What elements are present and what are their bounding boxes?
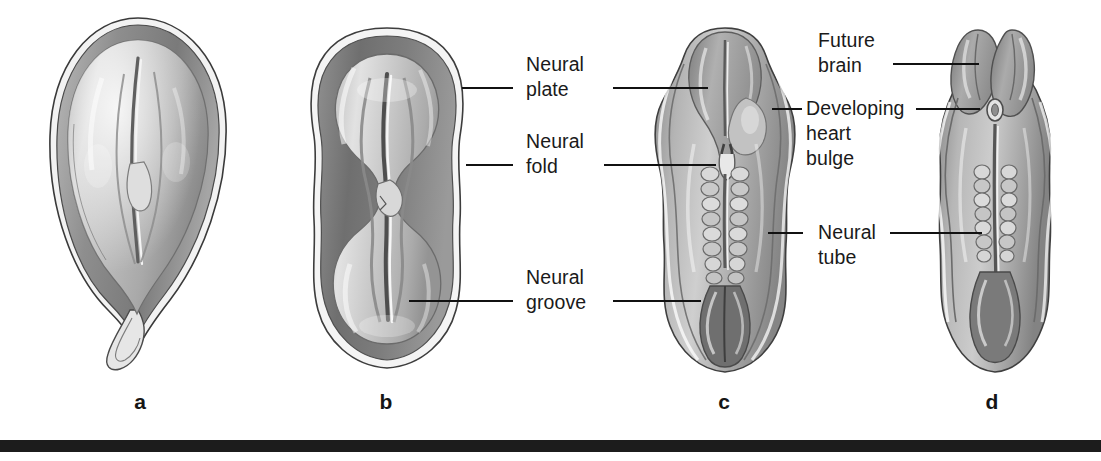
leader-neural-tube-left (768, 232, 803, 234)
leader-neural-groove-left (409, 300, 513, 302)
panel-d-illustration (920, 24, 1070, 376)
label-developing-heart-bulge: Developing heart bulge (806, 96, 905, 171)
label-neural-plate: Neural plate (526, 52, 584, 102)
label-neural-tube: Neural tube (818, 220, 876, 270)
label-neural-fold: Neural fold (526, 129, 584, 179)
leader-neural-tube-right (890, 232, 982, 234)
leader-neural-plate-left (462, 87, 513, 89)
label-neural-groove: Neural groove (526, 265, 586, 315)
leader-neural-fold-left (466, 164, 513, 166)
leader-neural-fold-right (604, 164, 716, 166)
panel-a-illustration (34, 14, 244, 374)
panel-letter-c: c (709, 390, 739, 414)
neurulation-figure: Neural plate Neural fold Neural groove F… (0, 0, 1101, 461)
leader-future-brain (893, 63, 979, 65)
leader-neural-groove-right (613, 300, 701, 302)
panel-letter-d: d (977, 390, 1007, 414)
leader-neural-plate-right (613, 87, 708, 89)
panel-letter-b: b (371, 390, 401, 414)
panel-letter-a: a (125, 390, 155, 414)
bottom-rule (0, 440, 1101, 452)
label-future-brain: Future brain (818, 28, 875, 78)
leader-heart-bulge-left (772, 108, 802, 110)
panel-c-illustration (640, 24, 810, 376)
leader-heart-bulge-right (916, 108, 980, 110)
panel-b-illustration (292, 24, 482, 374)
